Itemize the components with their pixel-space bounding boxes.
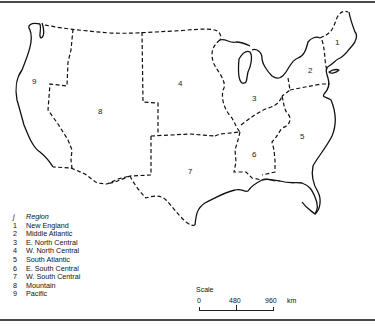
- region-label-3: 3: [252, 94, 257, 103]
- scale-unit: km: [287, 297, 296, 304]
- legend-key: 9: [13, 290, 26, 299]
- region-label-7: 7: [188, 167, 193, 176]
- region-label-2: 2: [308, 66, 313, 75]
- coastline: [16, 12, 356, 225]
- region-label-4: 4: [178, 79, 183, 88]
- bottom-rule: [0, 319, 375, 321]
- region-borders: [45, 11, 348, 225]
- region-label-6: 6: [252, 150, 257, 159]
- scale-tick-480: 480: [229, 297, 241, 304]
- scale-bar: Scale 0 480 960 km: [192, 284, 312, 314]
- region-label-1: 1: [335, 38, 340, 47]
- scale-tick-960: 960: [265, 297, 277, 304]
- legend-item: 9Pacific: [13, 290, 80, 299]
- scale-mid-tick: [236, 305, 237, 310]
- legend-label: Pacific: [26, 290, 47, 299]
- region-number-labels: 1 2 3 4 5 6 7 8 9: [32, 38, 340, 176]
- region-legend: j Region 1New England 2Middle Atlantic 3…: [13, 213, 80, 299]
- scale-tick-0: 0: [197, 297, 201, 304]
- region-label-8: 8: [98, 107, 103, 116]
- region-label-9: 9: [32, 77, 37, 86]
- region-label-5: 5: [300, 132, 305, 141]
- scale-title: Scale: [196, 286, 214, 293]
